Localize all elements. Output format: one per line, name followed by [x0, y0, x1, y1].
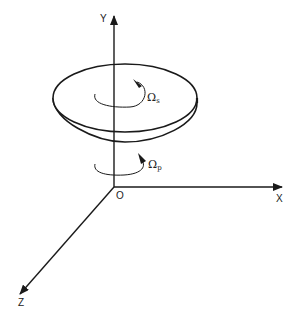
coordinate-diagram: Ωs Ωp Y X Z O	[0, 0, 295, 314]
disc	[53, 64, 197, 142]
precession-label: Ωp	[148, 158, 162, 172]
z-axis	[20, 187, 114, 294]
origin-label: O	[116, 190, 124, 201]
precession-arrow-icon	[95, 153, 146, 175]
x-axis-label: X	[276, 193, 283, 204]
z-axis-label: Z	[18, 297, 24, 308]
y-axis-label: Y	[100, 13, 107, 24]
diagram-canvas: Ωs Ωp Y X Z O	[0, 0, 295, 314]
